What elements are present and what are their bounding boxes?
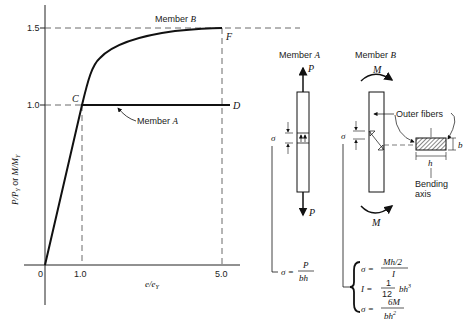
eq3-lhs: σ = (361, 304, 374, 314)
bending-axis-label-1: Bending (415, 179, 448, 189)
tick-x-0: 0 (38, 269, 43, 279)
member-b-curve-label: Member B (155, 14, 197, 24)
tick-y-1-5: 1.5 (27, 23, 40, 33)
eq2-num: 1 (386, 278, 391, 288)
eq1-den: I (391, 269, 396, 279)
moment-m-top: M (372, 64, 382, 75)
moment-m-bottom: M (371, 217, 381, 228)
y-axis-label: P/PY or M/MY (10, 154, 21, 206)
member-b-bar (369, 92, 384, 192)
eq3-den: bh2 (384, 310, 396, 321)
bending-axis-label-2: axis (415, 189, 432, 199)
moment-arrow-top-icon (361, 74, 392, 81)
outer-fibers-label: Outer fibers (396, 109, 444, 119)
moment-arrow-bottom-icon (361, 206, 392, 213)
cross-section (416, 138, 446, 150)
tick-x-5-0: 5.0 (215, 269, 228, 279)
member-a-leader (118, 108, 136, 121)
formula-a-den: bh (299, 273, 309, 283)
x-axis-label: e/eY (145, 279, 160, 290)
tick-x-1-0: 1.0 (74, 269, 87, 279)
dim-h: h (428, 158, 433, 168)
eq3-num: 6M (388, 297, 401, 307)
load-p-top: P (307, 63, 314, 74)
stress-label-b: σ (341, 131, 346, 141)
formula-a-num: P (302, 260, 309, 270)
load-p-bottom: P (308, 207, 315, 218)
member-b-curve (82, 28, 222, 105)
dim-b: b (458, 140, 463, 150)
eq1-num: Mh/2 (382, 257, 402, 267)
tick-y-1-0: 1.0 (27, 100, 40, 110)
eq2-lhs: I = (360, 284, 372, 294)
eq2-rest: bh3 (399, 283, 411, 294)
stress-strain-diagram: 1.5 1.0 0 1.0 5.0 C D F Member B Member … (0, 0, 472, 333)
member-a-title: Member A (279, 50, 321, 60)
member-b-sketch: Member B M σ Outer fibers b (341, 50, 463, 321)
member-b-title: Member B (355, 50, 397, 60)
point-label-c: C (72, 93, 79, 104)
member-a-bar (297, 92, 309, 192)
member-a-curve (45, 105, 230, 265)
member-a-curve-label: Member A (137, 116, 179, 126)
member-a-sketch: Member A P σ P σ = P bh (271, 50, 321, 283)
eq1-lhs: σ = (361, 264, 374, 274)
stress-label-a: σ (271, 133, 276, 143)
formula-a-lhs: σ = (281, 267, 294, 277)
point-label-f: F (225, 31, 233, 42)
point-label-d: D (232, 100, 241, 111)
graph: 1.5 1.0 0 1.0 5.0 C D F Member B Member … (10, 5, 300, 305)
